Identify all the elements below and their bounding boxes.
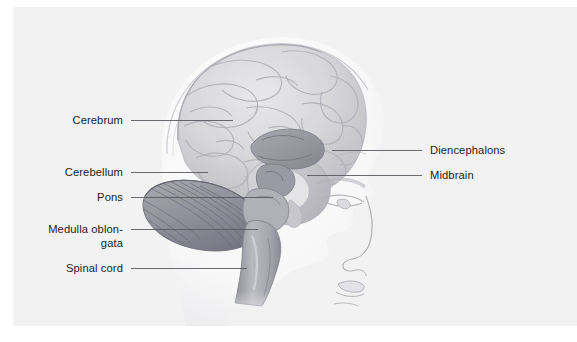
label-midbrain: Midbrain bbox=[430, 168, 474, 182]
brain-anatomy-figure: Cerebrum Cerebellum Pons Medulla oblon- … bbox=[0, 0, 577, 342]
label-pons: Pons bbox=[97, 190, 123, 204]
label-cerebrum: Cerebrum bbox=[72, 113, 123, 127]
label-cerebellum: Cerebellum bbox=[65, 165, 123, 179]
label-diencephalons: Diencephalons bbox=[430, 143, 505, 157]
label-medulla-oblongata-line1: Medulla oblon- bbox=[48, 222, 123, 236]
label-spinal-cord: Spinal cord bbox=[66, 261, 123, 275]
label-medulla-oblongata-line2: gata bbox=[101, 236, 123, 250]
